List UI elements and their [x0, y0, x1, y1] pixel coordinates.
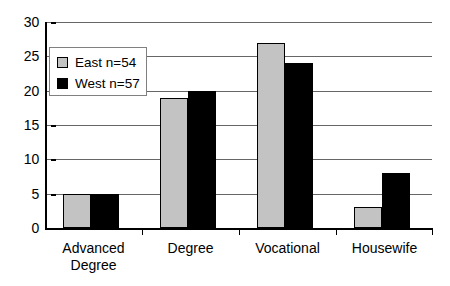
bar-east-degree — [160, 98, 188, 228]
y-tick-label-5: 5 — [11, 187, 39, 201]
legend-swatch-west-icon — [57, 78, 68, 89]
y-tick-mark-10 — [51, 159, 56, 161]
y-axis-line — [45, 22, 47, 229]
bar-west-advanced-degree — [91, 194, 119, 228]
y-tick-label-20: 20 — [11, 84, 39, 98]
legend-label-west: West n=57 — [75, 77, 140, 91]
x-axis-label-housewife: Housewife — [336, 240, 433, 257]
x-axis-label-degree: Degree — [142, 240, 239, 257]
y-tick-label-30: 30 — [11, 15, 39, 29]
y-tick-label-10: 10 — [11, 152, 39, 166]
legend-item-east: East n=54 — [57, 52, 146, 73]
x-tick-sep-3 — [336, 228, 337, 235]
x-tick-sep-1 — [142, 228, 143, 235]
y-tick-label-0: 0 — [11, 221, 39, 235]
x-tick-sep-4 — [432, 228, 433, 235]
y-tick-label-25: 25 — [11, 49, 39, 63]
bar-chart: 30 25 20 15 10 5 0 Advanced Degree Degre… — [0, 0, 450, 286]
y-tick-mark-30 — [51, 22, 56, 24]
x-axis-label-vocational: Vocational — [239, 240, 336, 257]
gridline-30 — [45, 22, 432, 23]
gridline-10 — [45, 159, 432, 160]
chart-legend: East n=54 West n=57 — [49, 47, 147, 96]
legend-swatch-east-icon — [57, 57, 68, 68]
x-axis-label-advanced-degree: Advanced Degree — [45, 240, 142, 274]
bar-east-advanced-degree — [63, 194, 91, 228]
bar-east-housewife — [354, 207, 382, 228]
y-tick-mark-5 — [51, 194, 56, 196]
legend-label-east: East n=54 — [75, 56, 136, 70]
bar-west-vocational — [285, 63, 313, 228]
y-tick-mark-15 — [51, 125, 56, 127]
x-tick-sep-2 — [239, 228, 240, 235]
y-axis-ticks: 30 25 20 15 10 5 0 — [6, 22, 39, 228]
y-tick-label-15: 15 — [11, 118, 39, 132]
bar-east-vocational — [257, 43, 285, 228]
legend-item-west: West n=57 — [57, 73, 146, 94]
y-tick-mark-0 — [51, 228, 56, 230]
gridline-15 — [45, 125, 432, 126]
bar-west-degree — [188, 91, 216, 228]
bar-west-housewife — [382, 173, 410, 228]
